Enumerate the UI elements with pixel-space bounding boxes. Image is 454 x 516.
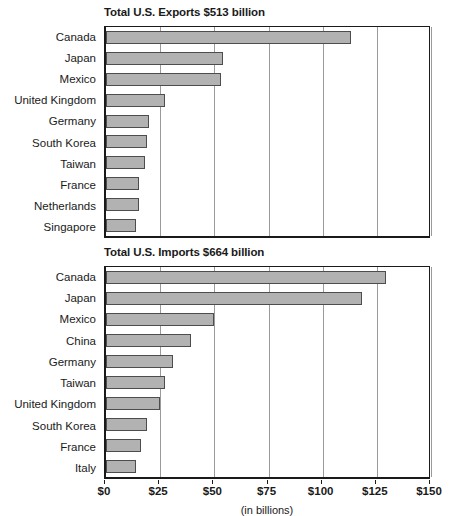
chart-exports-title: Total U.S. Exports $513 billion [104,6,265,18]
x-axis: $0$25$50$75$100$125$150 [104,480,430,502]
category-label-canada: Canada [0,26,99,47]
x-tick-label-125: $125 [362,485,388,497]
x-tick-label-100: $100 [308,485,334,497]
category-label-japan: Japan [0,47,99,68]
x-tick-50 [212,480,213,484]
bar-row [106,267,429,288]
chart-exports-plot-area [104,26,430,238]
category-label-canada: Canada [0,266,99,287]
bar-france [106,439,141,452]
bar-taiwan [106,376,165,389]
x-tick-label-25: $25 [149,485,168,497]
chart-imports-category-labels: CanadaJapanMexicoChinaGermanyTaiwanUnite… [0,266,99,479]
bar-singapore [106,219,136,232]
category-label-taiwan: Taiwan [0,153,99,174]
x-axis-caption: (in billions) [104,504,430,516]
category-label-germany: Germany [0,351,99,372]
bar-mexico [106,73,221,86]
x-tick-0 [104,480,105,484]
bar-row [106,90,429,111]
bar-row [106,288,429,309]
bar-japan [106,292,362,305]
bar-france [106,177,139,190]
x-tick-label-50: $50 [203,485,222,497]
x-tick-75 [267,480,268,484]
category-label-mexico: Mexico [0,309,99,330]
category-label-united-kingdom: United Kingdom [0,90,99,111]
category-label-france: France [0,174,99,195]
category-label-mexico: Mexico [0,68,99,89]
x-tick-label-150: $150 [416,485,442,497]
bar-row [106,152,429,173]
bar-canada [106,31,351,44]
bar-row [106,372,429,393]
x-tick-150 [429,480,430,484]
category-label-united-kingdom: United Kingdom [0,394,99,415]
chart-imports-plot-area [104,266,430,479]
bar-row [106,330,429,351]
category-label-netherlands: Netherlands [0,196,99,217]
x-tick-125 [375,480,376,484]
bar-united-kingdom [106,94,165,107]
bar-japan [106,52,223,65]
bar-row [106,393,429,414]
category-label-japan: Japan [0,287,99,308]
bar-germany [106,355,173,368]
gridline-150 [431,27,432,236]
bar-row [106,132,429,153]
category-label-china: China [0,330,99,351]
bar-row [106,48,429,69]
chart-exports: Total U.S. Exports $513 billion CanadaJa… [0,0,454,250]
category-label-south-korea: South Korea [0,132,99,153]
bar-italy [106,460,136,473]
chart-exports-bars [106,27,429,236]
category-label-italy: Italy [0,458,99,479]
bar-mexico [106,313,214,326]
x-tick-label-0: $0 [98,485,111,497]
bar-row [106,456,429,477]
bar-row [106,173,429,194]
bar-south-korea [106,135,147,148]
category-label-germany: Germany [0,111,99,132]
chart-imports-title: Total U.S. Imports $664 billion [104,246,264,258]
category-label-south-korea: South Korea [0,415,99,436]
category-label-france: France [0,436,99,457]
bar-germany [106,115,149,128]
x-tick-25 [158,480,159,484]
bar-taiwan [106,156,145,169]
bar-row [106,309,429,330]
bar-south-korea [106,418,147,431]
chart-exports-category-labels: CanadaJapanMexicoUnited KingdomGermanySo… [0,26,99,238]
bar-row [106,414,429,435]
bar-row [106,194,429,215]
bar-row [106,69,429,90]
x-tick-label-75: $75 [257,485,276,497]
bar-row [106,27,429,48]
bar-netherlands [106,198,139,211]
bar-row [106,215,429,236]
bar-row [106,111,429,132]
chart-imports-bars [106,267,429,477]
x-tick-100 [321,480,322,484]
bar-row [106,435,429,456]
bar-row [106,351,429,372]
bar-china [106,334,191,347]
gridline-150 [431,267,432,477]
category-label-singapore: Singapore [0,217,99,238]
chart-imports: Total U.S. Imports $664 billion CanadaJa… [0,240,454,509]
bar-united-kingdom [106,397,160,410]
bar-canada [106,271,386,284]
category-label-taiwan: Taiwan [0,372,99,393]
